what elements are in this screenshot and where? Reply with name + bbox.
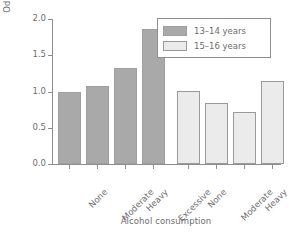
y-tick-mark-0-5 [48, 128, 52, 129]
legend-swatch-15-16-years [163, 41, 187, 51]
x-tick-mark-8 [272, 165, 273, 169]
y-tick-label-0-0: 0.0 [24, 159, 46, 168]
y-axis-title: Odds ratio for overweight [0, 0, 14, 32]
x-axis-title: Alcohol consumption [52, 216, 280, 226]
bar-15-16-heavy [233, 112, 256, 164]
y-tick-label-0-5: 0.5 [24, 123, 46, 132]
legend-swatch-13-14-years [163, 26, 187, 36]
legend-label-13-14-years: 13–14 years [194, 26, 246, 36]
x-tick-mark-3 [125, 165, 126, 169]
y-tick-mark-1-0 [48, 92, 52, 93]
y-tick-label-2-0: 2.0 [24, 14, 46, 23]
bar-13-14-moderate [86, 86, 109, 164]
x-tick-mark-6 [216, 165, 217, 169]
y-tick-label-1-5: 1.5 [24, 50, 46, 59]
x-tick-mark-1 [69, 165, 70, 169]
bar-chart-figure: Odds ratio for overweight 2.0 1.5 1.0 0.… [0, 0, 289, 237]
y-tick-label-1-0: 1.0 [24, 87, 46, 96]
x-tick-mark-4 [153, 165, 154, 169]
y-axis-tick-labels: 2.0 1.5 1.0 0.5 0.0 [22, 0, 46, 237]
x-tick-mark-5 [188, 165, 189, 169]
bar-15-16-none [177, 91, 200, 164]
legend: 13–14 years 15–16 years [157, 18, 271, 58]
y-tick-mark-0-0 [48, 164, 52, 165]
x-tick-mark-2 [97, 165, 98, 169]
x-axis-line [52, 164, 281, 165]
bar-13-14-none [58, 92, 81, 164]
legend-entry-15-16-years: 15–16 years [163, 38, 265, 53]
legend-label-15-16-years: 15–16 years [194, 41, 246, 51]
legend-entry-13-14-years: 13–14 years [163, 23, 265, 38]
x-tick-mark-7 [244, 165, 245, 169]
x-tick-label-none-1: None [86, 187, 109, 210]
bar-15-16-moderate [205, 103, 228, 164]
bar-15-16-excessive [261, 81, 284, 164]
